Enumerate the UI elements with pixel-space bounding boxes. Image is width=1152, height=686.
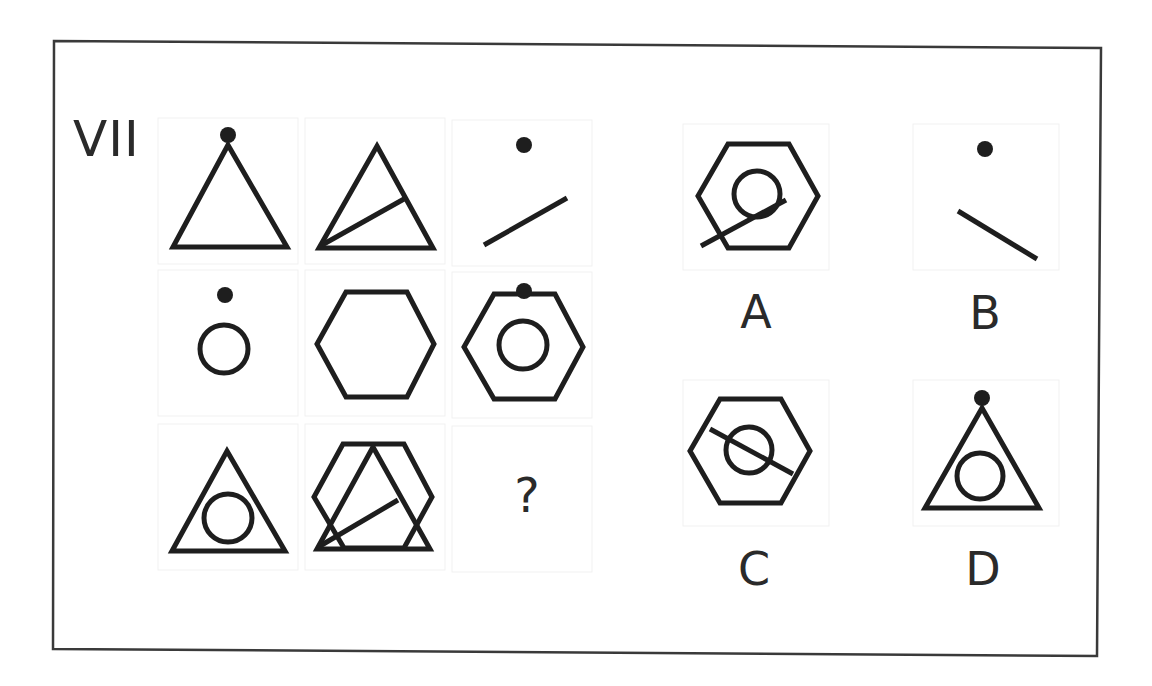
dot-shape <box>977 141 993 157</box>
option-d-label[interactable]: D <box>953 546 1013 592</box>
option-b-label[interactable]: B <box>955 290 1015 336</box>
puzzle-number-label: VII <box>73 114 140 164</box>
dot-shape <box>220 127 236 143</box>
option-a-label[interactable]: A <box>726 289 786 335</box>
dot-shape <box>516 137 532 153</box>
dot-shape <box>516 283 532 299</box>
cell-backgrounds <box>158 118 1059 572</box>
dot-shape <box>217 287 233 303</box>
option-c-label[interactable]: C <box>724 546 784 592</box>
dot-shape <box>974 390 990 406</box>
missing-cell-question-mark: ? <box>497 471 557 519</box>
